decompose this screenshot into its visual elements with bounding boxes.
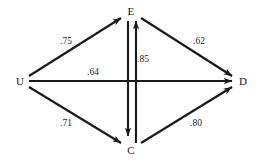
edge-line-u-c <box>29 87 121 143</box>
node-label-e: E <box>128 6 135 17</box>
edge-line-c-d <box>141 87 232 143</box>
edge-line-e-d <box>141 18 232 76</box>
edge-label-e-d: .62 <box>193 37 205 47</box>
edge-label-u-e: .75 <box>60 37 72 47</box>
edge-label-u-d: .64 <box>87 68 99 78</box>
node-label-u: U <box>16 76 24 87</box>
edge-label-c-d: .80 <box>190 119 202 129</box>
node-label-d: D <box>239 76 247 87</box>
node-label-c: C <box>127 145 135 156</box>
edge-label-e-c: .85 <box>137 55 149 65</box>
path-diagram: U E D C .75 .62 .64 .71 .80 .85 <box>0 0 261 164</box>
edge-label-u-c: .71 <box>60 119 72 129</box>
edge-line-u-e <box>29 18 121 76</box>
diagram-edges-layer <box>0 0 261 164</box>
